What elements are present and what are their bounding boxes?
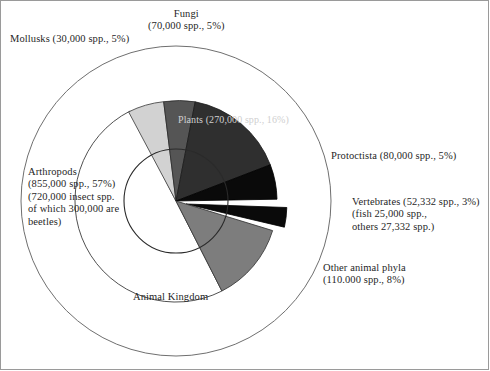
slice-label-mollusks: Mollusks (30,000 spp., 5%) — [10, 33, 129, 45]
slice-label-other-animal-phyla: Other animal phyla (110.000 spp., 8%) — [323, 262, 406, 287]
pie-chart-figure: Fungi (70,000 spp., 5%) Mollusks (30,000… — [0, 0, 490, 371]
slice-label-fungi: Fungi (70,000 spp., 5%) — [148, 8, 225, 33]
slice-label-arthropods: Arthropods (855,000 spp., 57%) (720,000 … — [28, 166, 119, 228]
slice-label-protoctista: Protoctista (80,000 spp., 5%) — [331, 150, 456, 162]
slice-label-plants: Plants (270,000 spp., 16%) — [178, 114, 289, 126]
slice-label-vertebrates: Vertebrates (52,332 spp., 3%) (fish 25,0… — [352, 196, 480, 233]
outer-ring-label-animal-kingdom: Animal Kingdom — [133, 291, 208, 303]
